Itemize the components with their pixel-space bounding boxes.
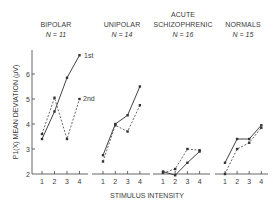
panel-title-acute: ACUTE: [171, 11, 195, 18]
series-line-1st: [103, 87, 140, 156]
x-tick-1: 1: [40, 178, 44, 185]
x-tick-2: 2: [235, 178, 239, 185]
y-tick-4: 4: [26, 121, 30, 128]
n-label-bipolar: N = 11: [46, 31, 66, 38]
x-tick-3: 3: [65, 178, 69, 185]
x-tick-3: 3: [126, 178, 130, 185]
x-axes: 1234123412341234: [32, 171, 268, 185]
data-point: [78, 98, 80, 100]
data-point: [139, 104, 141, 106]
data-point: [41, 133, 43, 135]
data-point: [126, 114, 128, 116]
x-tick-1: 1: [101, 178, 105, 185]
panel-title-normals: NORMALS: [225, 21, 261, 28]
x-tick-4: 4: [78, 178, 82, 185]
y-tick-6: 6: [26, 71, 30, 78]
data-point: [236, 138, 238, 140]
x-tick-1: 1: [223, 178, 227, 185]
data-point: [66, 138, 68, 140]
data-point: [66, 77, 68, 79]
series-line-1st: [163, 152, 200, 176]
data-point: [248, 138, 250, 140]
x-tick-1: 1: [161, 178, 165, 185]
y-axis: 6 5 4 3 2: [26, 50, 35, 178]
x-tick-2: 2: [113, 178, 117, 185]
n-label-unipolar: N = 14: [112, 31, 133, 38]
data-point: [224, 162, 226, 164]
data-point: [236, 148, 238, 150]
y-axis-label: P1(X) MEAN DEVIATION (μV): [12, 65, 20, 160]
data-point: [248, 142, 250, 144]
plot-area: [41, 54, 263, 176]
data-point: [198, 149, 200, 151]
series-label-2nd: 2nd: [83, 95, 95, 102]
series-line-2nd: [42, 98, 80, 139]
data-point: [186, 148, 188, 150]
data-point: [53, 110, 55, 112]
data-point: [78, 54, 80, 56]
data-point: [186, 162, 188, 164]
x-tick-4: 4: [259, 178, 263, 185]
data-point: [174, 168, 176, 170]
series-line-1st: [42, 55, 80, 139]
data-point: [102, 160, 104, 162]
series-line-2nd: [225, 128, 261, 174]
data-point: [174, 174, 176, 176]
series-label-1st: 1st: [84, 52, 93, 59]
line-chart-figure: BIPOLAR N = 11 UNIPOLAR N = 14 ACUTE SCH…: [0, 0, 275, 204]
x-tick-3: 3: [185, 178, 189, 185]
y-tick-3: 3: [26, 146, 30, 153]
panel-title-unipolar: UNIPOLAR: [104, 21, 141, 28]
data-point: [41, 138, 43, 140]
x-tick-2: 2: [173, 178, 177, 185]
data-point: [162, 172, 164, 174]
data-point: [139, 85, 141, 87]
data-point: [102, 154, 104, 156]
y-tick-2: 2: [26, 171, 30, 178]
x-tick-2: 2: [53, 178, 57, 185]
series-line-1st: [225, 125, 261, 163]
n-label-normals: N = 15: [233, 31, 254, 38]
data-point: [260, 127, 262, 129]
n-label-schizophrenic: N = 16: [173, 31, 194, 38]
panel-title-schizophrenic: SCHIZOPHRENIC: [153, 21, 212, 28]
data-point: [260, 124, 262, 126]
data-point: [224, 173, 226, 175]
x-axis-label: STIMULUS INTENSITY: [110, 192, 184, 199]
x-tick-3: 3: [247, 178, 251, 185]
series-line-2nd: [103, 105, 140, 161]
data-point: [126, 130, 128, 132]
x-tick-4: 4: [198, 178, 202, 185]
x-tick-4: 4: [138, 178, 142, 185]
data-point: [53, 97, 55, 99]
y-tick-5: 5: [26, 96, 30, 103]
panel-title-bipolar: BIPOLAR: [40, 21, 71, 28]
data-point: [114, 124, 116, 126]
